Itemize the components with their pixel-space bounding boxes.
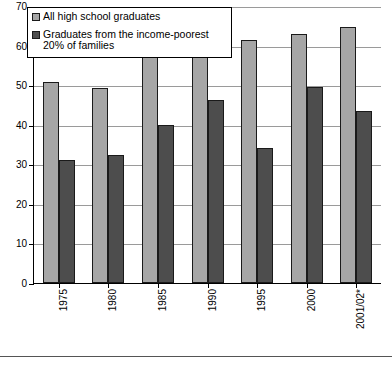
x-tick-mark (307, 283, 308, 288)
y-axis-label: 20 (5, 200, 27, 210)
bar (307, 87, 323, 283)
x-axis-label: 1990 (208, 289, 218, 311)
bar (257, 148, 273, 283)
bar (92, 88, 108, 283)
legend-swatch-all-graduates (32, 13, 40, 21)
x-axis-label: 1985 (158, 289, 168, 311)
x-tick-mark (158, 283, 159, 288)
y-axis-label: 50 (5, 81, 27, 91)
bar-group: 2001/02* (331, 7, 381, 283)
x-axis-label: 1980 (108, 289, 118, 311)
legend-swatch-poorest-quintile (32, 31, 40, 39)
x-tick-mark (108, 283, 109, 288)
bar-group: 1995 (232, 7, 282, 283)
bar (43, 82, 59, 283)
x-tick-mark (257, 283, 258, 288)
footer-divider (0, 356, 392, 357)
y-axis-label: 10 (5, 239, 27, 249)
x-axis-label: 1975 (59, 289, 69, 311)
bar-group: 2000 (282, 7, 332, 283)
y-tick-mark (29, 284, 34, 285)
y-axis-label: 70 (5, 2, 27, 12)
bar (291, 34, 307, 283)
y-axis-label: 0 (5, 279, 27, 289)
bar (208, 100, 224, 283)
y-axis-label: 60 (5, 42, 27, 52)
footer-cutoff-text (2, 367, 390, 373)
bar (108, 155, 124, 283)
bar (340, 27, 356, 283)
bar (241, 40, 257, 283)
x-tick-mark (208, 283, 209, 288)
legend-label-poorest-quintile: Graduates from the income-poorest 20% of… (43, 29, 227, 52)
chart-legend: All high school graduates Graduates from… (27, 7, 232, 58)
y-axis-label: 30 (5, 160, 27, 170)
legend-label-all-graduates: All high school graduates (43, 11, 160, 23)
legend-item: Graduates from the income-poorest 20% of… (32, 29, 227, 52)
bar (59, 160, 75, 283)
y-axis-label: 40 (5, 121, 27, 131)
x-axis-label: 2000 (307, 289, 317, 311)
x-axis-label: 2001/02* (356, 289, 366, 329)
x-tick-mark (59, 283, 60, 288)
bar (192, 46, 208, 283)
legend-item: All high school graduates (32, 11, 227, 23)
x-axis-label: 1995 (257, 289, 267, 311)
bar (158, 125, 174, 283)
bar (142, 55, 158, 283)
bar (356, 111, 372, 283)
x-tick-mark (356, 283, 357, 288)
bar-chart: 010203040506070 197519801985199019952000… (0, 0, 392, 373)
